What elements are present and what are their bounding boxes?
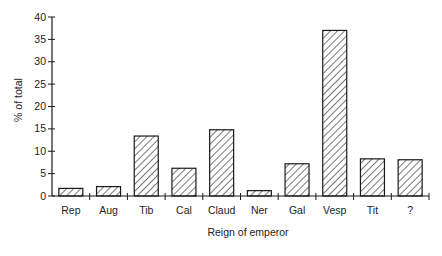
bar-gal [285,164,309,196]
x-tick-label: Gal [289,204,305,216]
y-tick-label: 10 [34,145,46,157]
x-tick-label: Claud [208,204,236,216]
x-tick-label: Vesp [323,204,347,216]
x-axis-title: Reign of emperor [207,226,289,238]
bar-unknown [398,160,422,196]
x-tick-label: Tib [139,204,153,216]
y-tick-label: 20 [34,100,46,112]
chart-canvas: 0510152025303540 RepAugTibCalClaudNerGal… [0,0,442,256]
y-axis-title: % of total [12,78,24,122]
y-tick-label: 15 [34,122,46,134]
y-tick-label: 30 [34,55,46,67]
y-tick-label: 5 [40,167,46,179]
bar-aug [97,187,121,196]
x-tick-label: Aug [99,204,118,216]
y-tick-label: 25 [34,78,46,90]
bar-chart: 0510152025303540 RepAugTibCalClaudNerGal… [0,0,442,256]
y-tick-label: 35 [34,33,46,45]
x-tick-label: Ner [251,204,268,216]
bars [59,30,422,196]
x-tick-label: Tit [367,204,378,216]
x-tick-label: Cal [176,204,192,216]
bar-tib [134,136,158,196]
x-tick-label: ? [407,204,413,216]
y-tick-label: 40 [34,11,46,23]
bar-cal [172,168,196,196]
bar-claud [210,130,234,196]
bar-rep [59,188,83,196]
bar-tit [360,159,384,196]
bar-vesp [323,30,347,196]
y-axis: 0510152025303540 [34,11,55,202]
y-tick-label: 0 [40,190,46,202]
x-tick-label: Rep [61,204,80,216]
bar-ner [247,191,271,196]
